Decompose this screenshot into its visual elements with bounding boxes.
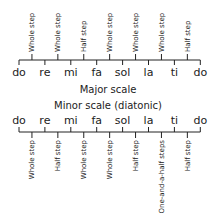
major-step-label: Whole step (54, 12, 62, 52)
minor-step-label: Half step (184, 139, 192, 171)
minor-note-label: ti (171, 114, 178, 127)
minor-note-label: mi (64, 114, 78, 127)
major-scale-title: Major scale (80, 84, 137, 95)
minor-note-label: re (39, 114, 50, 127)
major-step-label: Whole step (106, 12, 114, 52)
major-step-label: Whole step (158, 12, 166, 52)
minor-note-label: la (144, 114, 154, 127)
major-note-label: do (193, 66, 207, 79)
minor-step-label: Whole step (80, 139, 88, 179)
minor-note-label: do (193, 114, 207, 127)
minor-note-label: sol (115, 114, 131, 127)
major-note-label: re (39, 66, 50, 79)
major-step-label: Half step (80, 20, 88, 52)
major-note-label: do (12, 66, 26, 79)
major-step-label: Whole step (132, 12, 140, 52)
minor-note-label: do (12, 114, 26, 127)
minor-step-label: Whole step (28, 139, 36, 179)
major-note-label: sol (115, 66, 131, 79)
minor-note-label: fa (91, 114, 102, 127)
minor-step-label: Whole step (106, 139, 114, 179)
major-step-label: Half step (184, 20, 192, 52)
minor-step-label: Half step (54, 139, 62, 171)
major-step-label: Whole step (28, 12, 36, 52)
scale-diagram: doremifasollatidoWhole stepWhole stepHal… (0, 0, 216, 221)
major-note-label: la (144, 66, 154, 79)
major-note-label: ti (171, 66, 178, 79)
major-note-label: fa (91, 66, 102, 79)
minor-scale-title: Minor scale (diatonic) (54, 100, 162, 111)
major-note-label: mi (64, 66, 78, 79)
minor-step-label: Half step (132, 139, 140, 171)
minor-step-label: One-and-a-half steps (158, 140, 166, 214)
